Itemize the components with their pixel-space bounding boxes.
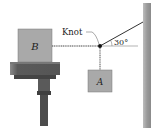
knot-leader-line (86, 32, 99, 44)
angle-label: 30° (114, 38, 128, 47)
block-a-label: A (96, 77, 104, 87)
knot (98, 44, 102, 48)
wall (143, 3, 151, 128)
knot-label: Knot (62, 27, 83, 37)
diagram-canvas: B 30° Knot A (0, 0, 163, 136)
table-collar (37, 91, 51, 95)
table-top-edge (10, 62, 60, 64)
table-leg (40, 95, 48, 126)
table-neck (38, 79, 50, 93)
table-under (14, 75, 56, 79)
angle-arc (111, 40, 113, 46)
block-b-label: B (30, 41, 38, 52)
